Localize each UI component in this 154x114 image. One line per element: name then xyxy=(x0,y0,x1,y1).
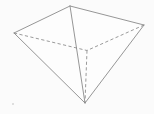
face-group xyxy=(14,6,144,103)
speck-bottom-left-icon xyxy=(12,103,14,105)
tetrahedron-figure xyxy=(0,0,154,114)
artifact-group xyxy=(12,103,14,105)
tetrahedron-svg xyxy=(0,0,154,114)
